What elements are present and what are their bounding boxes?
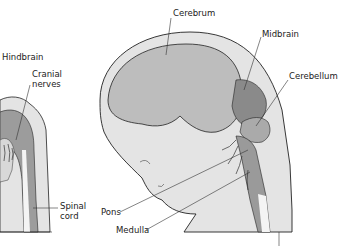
label-cerebellum: Cerebellum <box>289 71 338 81</box>
label-hindbrain: Hindbrain <box>2 52 43 62</box>
label-cranial-nerves-line1: Cranial <box>32 69 62 79</box>
left-embryo <box>0 97 52 232</box>
label-medulla: Medulla <box>116 225 149 235</box>
label-cerebrum: Cerebrum <box>173 8 215 18</box>
label-spinal-cord-line2: cord <box>60 211 79 221</box>
label-cranial-nerves-line2: nerves <box>32 79 61 89</box>
label-pons: Pons <box>101 207 121 217</box>
label-midbrain: Midbrain <box>262 29 299 39</box>
label-spinal-cord-line1: Spinal <box>60 201 86 211</box>
